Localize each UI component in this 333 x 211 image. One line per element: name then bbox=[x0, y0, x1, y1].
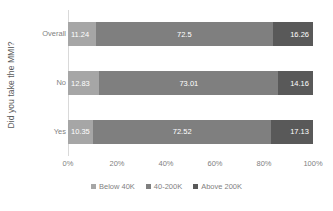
stacked-bar-chart: Did you take the MMI? OverallNoYes 11.24… bbox=[0, 0, 333, 211]
legend-swatch-icon bbox=[193, 184, 198, 189]
bar-data-label: 72.52 bbox=[173, 127, 192, 136]
x-tick-label: 80% bbox=[256, 159, 271, 168]
x-tick-label: 0% bbox=[63, 159, 74, 168]
legend-swatch-icon bbox=[91, 184, 96, 189]
bar-data-label: 12.83 bbox=[71, 79, 90, 88]
bar-segment: 11.24 bbox=[68, 22, 96, 46]
legend-label: 40-200K bbox=[154, 182, 182, 191]
bar-segment: 72.5 bbox=[96, 22, 274, 46]
bar-segment: 16.26 bbox=[273, 22, 313, 46]
bar-data-label: 17.13 bbox=[290, 127, 309, 136]
legend-swatch-icon bbox=[146, 184, 151, 189]
category-label-yes: Yes bbox=[22, 128, 66, 136]
bar-data-label: 11.24 bbox=[71, 30, 89, 39]
bar-segment: 12.83 bbox=[68, 71, 99, 95]
bar-data-label: 14.16 bbox=[290, 79, 309, 88]
bar-segment: 73.01 bbox=[99, 71, 278, 95]
x-tick-label: 40% bbox=[158, 159, 173, 168]
x-axis-tick-labels: 0%20%40%60%80%100% bbox=[68, 159, 313, 171]
bar-data-label: 73.01 bbox=[179, 79, 198, 88]
x-tick-label: 100% bbox=[303, 159, 322, 168]
bar-row: 11.2472.516.26 bbox=[68, 22, 313, 46]
legend-label: Above 200K bbox=[201, 182, 242, 191]
legend-item[interactable]: Below 40K bbox=[91, 182, 135, 191]
category-label-overall: Overall bbox=[22, 30, 66, 38]
category-axis-labels: OverallNoYes bbox=[18, 0, 66, 157]
plot-area: 11.2472.516.2612.8373.0114.1610.3572.521… bbox=[68, 10, 313, 156]
legend-item[interactable]: 40-200K bbox=[146, 182, 182, 191]
x-tick-label: 60% bbox=[207, 159, 222, 168]
bar-segment: 14.16 bbox=[278, 71, 313, 95]
bar-segment: 10.35 bbox=[68, 120, 93, 144]
bar-data-label: 16.26 bbox=[290, 30, 309, 39]
bar-row: 12.8373.0114.16 bbox=[68, 71, 313, 95]
legend-label: Below 40K bbox=[99, 182, 135, 191]
bar-data-label: 10.35 bbox=[71, 127, 90, 136]
bar-data-label: 72.5 bbox=[177, 30, 192, 39]
x-tick-label: 20% bbox=[109, 159, 124, 168]
category-label-no: No bbox=[22, 79, 66, 87]
y-axis-title-text: Did you take the MMI? bbox=[6, 41, 16, 128]
legend-item[interactable]: Above 200K bbox=[193, 182, 242, 191]
chart-legend: Below 40K40-200KAbove 200K bbox=[0, 182, 333, 191]
bar-row: 10.3572.5217.13 bbox=[68, 120, 313, 144]
bar-segment: 17.13 bbox=[271, 120, 313, 144]
bar-segment: 72.52 bbox=[93, 120, 271, 144]
